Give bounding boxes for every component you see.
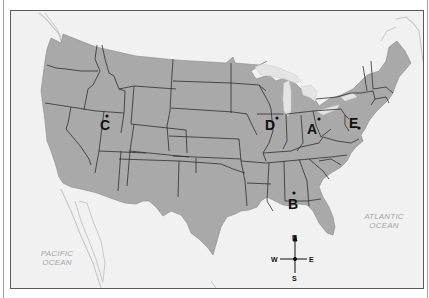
compass-south-icon: S <box>292 275 297 282</box>
left-edge-line <box>3 0 4 298</box>
point-label-b: B <box>288 197 298 211</box>
pacific-ocean-line2: OCEAN <box>27 258 87 267</box>
right-edge-line <box>427 0 428 298</box>
point-label-e: E <box>349 116 358 130</box>
atlantic-ocean-line2: OCEAN <box>353 221 415 230</box>
point-label-c: C <box>100 118 110 132</box>
compass-west-icon: W <box>271 256 278 263</box>
point-label-d: D <box>265 118 275 132</box>
point-label-a: A <box>307 122 317 136</box>
pacific-ocean-line1: PACIFIC <box>27 249 87 258</box>
pacific-ocean-label: PACIFIC OCEAN <box>27 249 87 267</box>
us-map: C D A E B PACIFIC OCEAN ATLANTIC OCEAN N… <box>10 10 424 289</box>
atlantic-ocean-line1: ATLANTIC <box>353 212 415 221</box>
atlantic-ocean-label: ATLANTIC OCEAN <box>353 212 415 230</box>
us-states-map-graphic <box>11 11 423 288</box>
compass-north-icon: N <box>292 234 297 241</box>
compass-east-icon: E <box>309 256 314 263</box>
